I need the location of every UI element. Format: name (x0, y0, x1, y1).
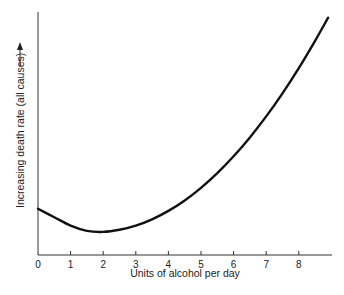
x-tick-label: 2 (100, 259, 106, 270)
x-tick-label: 0 (35, 259, 41, 270)
x-axis-label: Units of alcohol per day (130, 267, 240, 279)
x-tick-label: 7 (263, 259, 269, 270)
y-axis-label: Increasing death rate (all causes) (14, 53, 26, 208)
death-rate-curve (38, 18, 328, 232)
x-tick-label: 8 (296, 259, 302, 270)
line-chart: 012345678 Units of alcohol per day Incre… (0, 0, 344, 295)
x-tick-label: 1 (68, 259, 74, 270)
